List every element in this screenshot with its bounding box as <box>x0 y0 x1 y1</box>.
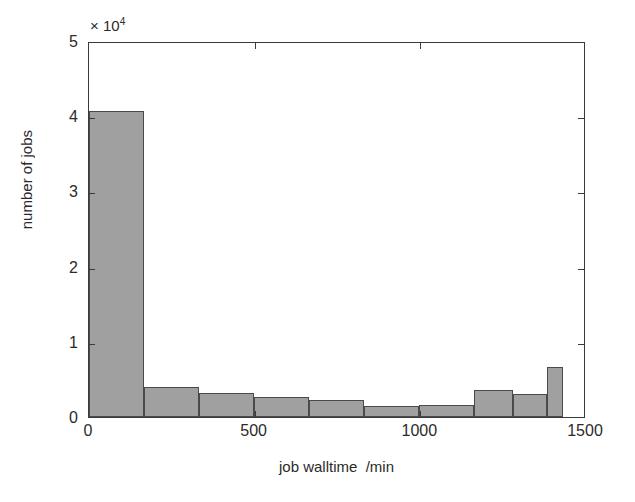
histogram-bar <box>474 390 513 417</box>
y-axis-label: number of jobs <box>18 130 40 229</box>
y-axis-tick-right <box>578 269 584 270</box>
y-axis-tick <box>89 118 95 119</box>
y-axis-tick-label: 3 <box>69 183 78 201</box>
x-axis-tick <box>255 43 256 49</box>
y-axis-tick-label: 1 <box>69 334 78 352</box>
histogram-bar <box>419 405 474 417</box>
y-axis-tick-label: 0 <box>69 409 78 427</box>
histogram-bar <box>364 406 419 417</box>
x-axis-tick-top <box>420 411 421 417</box>
histogram-bar <box>309 400 364 417</box>
y-axis-tick-right <box>578 344 584 345</box>
y-axis-tick-right <box>578 118 584 119</box>
y-axis-exponent-power: 4 <box>120 16 126 27</box>
histogram-bar <box>254 397 309 417</box>
y-axis-tick <box>89 269 95 270</box>
x-axis-tick-label: 0 <box>84 422 93 440</box>
histogram-bar <box>513 394 546 417</box>
y-axis-exponent-mantissa: × 10 <box>90 17 120 34</box>
histogram-bar <box>144 387 199 417</box>
x-axis-tick <box>420 43 421 49</box>
plot-area <box>88 42 585 418</box>
x-axis-tick-label: 1500 <box>567 422 603 440</box>
y-axis-tick-right <box>578 193 584 194</box>
x-axis-tick-label: 500 <box>240 422 267 440</box>
histogram-figure: × 104 number of jobs 050010001500012345 … <box>0 0 635 502</box>
x-axis-label: job walltime /min <box>88 458 585 475</box>
y-axis-exponent-label: × 104 <box>90 16 125 34</box>
y-axis-tick <box>89 344 95 345</box>
histogram-bar <box>547 367 563 417</box>
y-axis-tick-label: 2 <box>69 259 78 277</box>
histogram-bar <box>89 111 144 417</box>
y-axis-tick-label: 5 <box>69 33 78 51</box>
y-axis-tick-label: 4 <box>69 108 78 126</box>
histogram-bars <box>89 43 584 417</box>
y-axis-tick <box>89 193 95 194</box>
x-axis-tick-top <box>255 411 256 417</box>
histogram-bar <box>199 393 254 417</box>
x-axis-tick-label: 1000 <box>402 422 438 440</box>
